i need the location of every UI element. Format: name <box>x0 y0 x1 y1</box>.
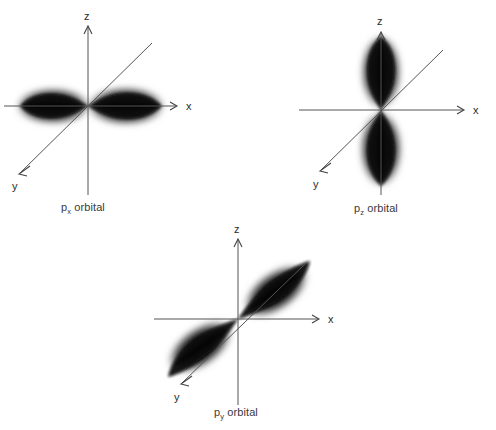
px-z-axis-label: z <box>84 10 90 22</box>
py-caption-suffix: orbital <box>224 406 258 418</box>
pz-z-axis-label: z <box>377 15 383 27</box>
py-y-axis-label: y <box>174 391 180 403</box>
orbital-diagram-py: x z y py orbital <box>150 225 350 405</box>
py-x-axis-label: x <box>328 313 334 325</box>
py-svg: x z y <box>150 225 350 405</box>
px-y-arrowhead <box>19 166 30 176</box>
py-caption: py orbital <box>214 406 258 421</box>
pz-x-axis-label: x <box>473 104 479 116</box>
orbital-diagram-px: x z y px orbital <box>0 10 210 195</box>
figure-canvas: x z y px orbital <box>0 0 496 430</box>
py-y-arrowhead <box>181 376 192 386</box>
pz-caption: pz orbital <box>354 202 398 217</box>
px-y-axis-label: y <box>12 180 18 192</box>
py-y-axis-line <box>182 263 306 383</box>
pz-y-arrowhead <box>320 163 331 173</box>
pz-caption-suffix: orbital <box>364 202 398 214</box>
px-caption: px orbital <box>61 201 105 216</box>
pz-y-axis-label: y <box>313 178 319 190</box>
pz-axes <box>299 32 463 195</box>
orbital-diagram-pz: x z y pz orbital <box>295 10 495 195</box>
px-x-axis-label: x <box>186 100 192 112</box>
px-caption-suffix: orbital <box>71 201 105 213</box>
pz-svg: x z y <box>295 10 495 195</box>
py-z-axis-label: z <box>234 223 240 235</box>
px-svg: x z y <box>0 10 210 195</box>
